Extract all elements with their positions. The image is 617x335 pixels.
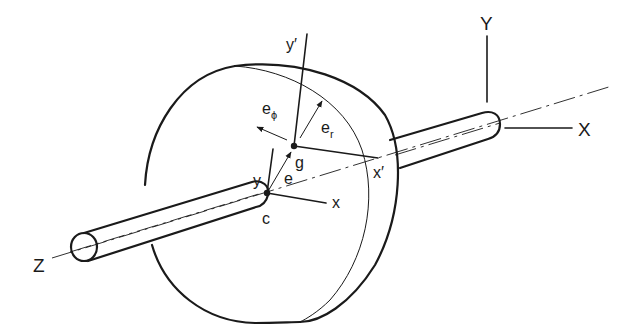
- point-g: [291, 143, 297, 149]
- e-phi-label: eϕ: [262, 100, 277, 121]
- x-prime-label: x′: [373, 164, 384, 181]
- disk-front-face: [145, 66, 235, 185]
- local-y-axis: [267, 149, 273, 193]
- disk-front-face-lower: [152, 245, 300, 323]
- left-shaft-end-cap: [71, 233, 97, 261]
- local-x-axis: [267, 193, 326, 203]
- fixed-Y-label: Y: [480, 13, 493, 34]
- right-shaft: [390, 112, 500, 168]
- point-c: [264, 190, 270, 196]
- rotor-diagram: Y X Z y′ x′ eϕ er y x e g c: [0, 0, 617, 335]
- local-y-label: y: [253, 172, 261, 189]
- fixed-X-label: X: [578, 119, 591, 140]
- shaft-centerline: [52, 86, 612, 258]
- disk-rim-outer: [235, 64, 398, 322]
- fixed-frame: Y X Z: [33, 13, 591, 276]
- point-g-label: g: [295, 154, 304, 171]
- disk-face-edge: [235, 66, 369, 322]
- x-prime-axis: [294, 146, 378, 158]
- local-frame: y x e g c: [253, 149, 340, 227]
- y-prime-label: y′: [286, 36, 297, 53]
- point-c-label: c: [262, 210, 270, 227]
- fixed-Z-label: Z: [33, 255, 45, 276]
- e-phi-arrow: [257, 127, 287, 140]
- e-r-arrow: [300, 101, 322, 138]
- left-shaft: [70, 181, 268, 261]
- local-x-label: x: [332, 194, 340, 211]
- eccentricity-label: e: [284, 170, 293, 187]
- e-r-label: er: [321, 119, 334, 140]
